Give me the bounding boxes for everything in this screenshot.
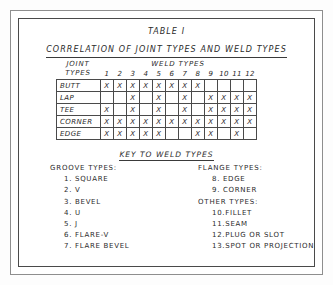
matrix-column-header-12: 12 bbox=[244, 69, 257, 80]
key-group-heading-other-types: OTHER TYPES: bbox=[182, 197, 294, 208]
key-item-number: 10. bbox=[212, 208, 225, 219]
key-item-number: 12. bbox=[212, 230, 225, 241]
table-row: BUTTXXXXXXXX bbox=[57, 80, 257, 92]
matrix-cell-butt-2: X bbox=[114, 80, 127, 92]
matrix-cell-edge-10 bbox=[218, 128, 231, 140]
matrix-cell-tee-4 bbox=[140, 104, 153, 116]
matrix-cell-butt-6: X bbox=[166, 80, 179, 92]
key-group-heading-groove-types: GROOVE TYPES: bbox=[50, 163, 162, 174]
matrix-cell-corner-10: X bbox=[218, 116, 231, 128]
matrix-cell-edge-8: X bbox=[192, 128, 205, 140]
matrix-row-label-edge: EDGE bbox=[57, 128, 101, 140]
key-item-number: 8. bbox=[212, 174, 223, 185]
matrix-cell-butt-4: X bbox=[140, 80, 153, 92]
key-item-number: 9. bbox=[212, 185, 223, 196]
key-item-label: CORNER bbox=[223, 186, 257, 194]
key-item-label: PLUG OR SLOT bbox=[225, 231, 284, 239]
key-item-label: FLARE BEVEL bbox=[75, 242, 129, 250]
key-item-number: 4. bbox=[64, 208, 75, 219]
matrix-cell-corner-11: X bbox=[231, 116, 244, 128]
matrix-row-label-corner: CORNER bbox=[57, 116, 101, 128]
key-item-12: 12.PLUG OR SLOT bbox=[182, 230, 294, 241]
matrix-row-label-tee: TEE bbox=[57, 104, 101, 116]
matrix-cell-edge-4: X bbox=[140, 128, 153, 140]
matrix-column-header-7: 7 bbox=[179, 69, 192, 80]
matrix-column-header-row: 123456789101112 bbox=[57, 69, 257, 80]
key-item-number: 3. bbox=[64, 197, 75, 208]
matrix-cell-tee-11: X bbox=[231, 104, 244, 116]
key-item-10: 10.FILLET bbox=[182, 208, 294, 219]
key-item-1: 1.SQUARE bbox=[50, 174, 162, 185]
matrix-cell-corner-4: X bbox=[140, 116, 153, 128]
key-item-13: 13.SPOT OR PROJECTION bbox=[182, 241, 294, 252]
drawing-page: TABLE I CORRELATION OF JOINT TYPES AND W… bbox=[0, 0, 333, 285]
key-column-right: FLANGE TYPES:8.EDGE9.CORNEROTHER TYPES:1… bbox=[182, 163, 294, 253]
matrix-cell-corner-3: X bbox=[127, 116, 140, 128]
key-item-number: 1. bbox=[64, 174, 75, 185]
key-item-label: J bbox=[75, 220, 78, 228]
matrix-cell-butt-10 bbox=[218, 80, 231, 92]
matrix-cell-edge-6 bbox=[166, 128, 179, 140]
matrix-column-header-11: 11 bbox=[231, 69, 244, 80]
matrix-row-label-lap: LAP bbox=[57, 92, 101, 104]
matrix-cell-butt-12 bbox=[244, 80, 257, 92]
matrix-cell-lap-5: X bbox=[153, 92, 166, 104]
matrix-cell-butt-11 bbox=[231, 80, 244, 92]
matrix-cell-corner-1: X bbox=[101, 116, 114, 128]
key-column-left: GROOVE TYPES:1.SQUARE2.V3.BEVEL4.U5.J6.F… bbox=[50, 163, 162, 253]
matrix-cell-butt-1: X bbox=[101, 80, 114, 92]
weld-types-axis-label: WELD TYPES bbox=[118, 60, 238, 69]
matrix-cell-tee-2 bbox=[114, 104, 127, 116]
key-item-number: 7. bbox=[64, 241, 75, 252]
matrix-cell-lap-8 bbox=[192, 92, 205, 104]
matrix-cell-tee-9: X bbox=[205, 104, 218, 116]
matrix-column-header-4: 4 bbox=[140, 69, 153, 80]
matrix-cell-butt-3: X bbox=[127, 80, 140, 92]
matrix-column-header-10: 10 bbox=[218, 69, 231, 80]
matrix-cell-lap-7: X bbox=[179, 92, 192, 104]
matrix-cell-tee-5: X bbox=[153, 104, 166, 116]
matrix-cell-tee-3: X bbox=[127, 104, 140, 116]
matrix-cell-lap-2 bbox=[114, 92, 127, 104]
key-item-label: V bbox=[75, 186, 81, 194]
table-row: CORNERXXXXXXXXXXXX bbox=[57, 116, 257, 128]
matrix-cell-edge-11: X bbox=[231, 128, 244, 140]
key-item-number: 11. bbox=[212, 219, 225, 230]
matrix-cell-tee-10: X bbox=[218, 104, 231, 116]
key-item-5: 5.J bbox=[50, 219, 162, 230]
key-item-label: FILLET bbox=[225, 209, 252, 217]
matrix-cell-tee-6 bbox=[166, 104, 179, 116]
matrix-cell-corner-8: X bbox=[192, 116, 205, 128]
matrix-cell-butt-7: X bbox=[179, 80, 192, 92]
key-item-label: SQUARE bbox=[75, 175, 108, 183]
key-list: 1.SQUARE2.V3.BEVEL4.U5.J6.FLARE-V7.FLARE… bbox=[50, 174, 162, 252]
key-item-8: 8.EDGE bbox=[182, 174, 294, 185]
matrix-cell-butt-5: X bbox=[153, 80, 166, 92]
matrix-cell-lap-12: X bbox=[244, 92, 257, 104]
key-item-label: SEAM bbox=[225, 220, 248, 228]
matrix-cell-corner-9: X bbox=[205, 116, 218, 128]
matrix-cell-lap-10: X bbox=[218, 92, 231, 104]
matrix-row-label-butt: BUTT bbox=[57, 80, 101, 92]
matrix-cell-edge-2: X bbox=[114, 128, 127, 140]
key-group-heading-flange-types: FLANGE TYPES: bbox=[182, 163, 294, 174]
matrix-cell-tee-12: X bbox=[244, 104, 257, 116]
matrix-cell-tee-8 bbox=[192, 104, 205, 116]
matrix-cell-edge-3: X bbox=[127, 128, 140, 140]
matrix-cell-edge-1: X bbox=[101, 128, 114, 140]
key-item-4: 4.U bbox=[50, 208, 162, 219]
matrix-cell-lap-4 bbox=[140, 92, 153, 104]
matrix-cell-lap-3: X bbox=[127, 92, 140, 104]
table-title: CORRELATION OF JOINT TYPES AND WELD TYPE… bbox=[46, 43, 287, 58]
key-list: 10.FILLET11.SEAM12.PLUG OR SLOT13.SPOT O… bbox=[182, 208, 294, 253]
matrix-cell-edge-12 bbox=[244, 128, 257, 140]
key-item-number: 5. bbox=[64, 219, 75, 230]
matrix-column-header-5: 5 bbox=[153, 69, 166, 80]
matrix-cell-lap-11: X bbox=[231, 92, 244, 104]
correlation-matrix-wrapper: 123456789101112BUTTXXXXXXXXLAPXXXXXXXTEE… bbox=[56, 69, 257, 140]
matrix-cell-corner-12: X bbox=[244, 116, 257, 128]
title-block: TABLE I CORRELATION OF JOINT TYPES AND W… bbox=[18, 26, 315, 58]
matrix-cell-corner-2: X bbox=[114, 116, 127, 128]
matrix-column-header-8: 8 bbox=[192, 69, 205, 80]
key-item-label: BEVEL bbox=[75, 198, 101, 206]
